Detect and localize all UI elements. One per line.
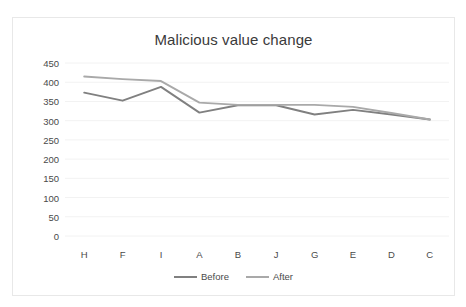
legend-line-icon [174,276,197,278]
x-axis-tick-label-f: F [108,249,138,260]
y-axis-tick-label: 300 [25,115,59,126]
chart-container: Malicious value change 45040035030025020… [12,17,455,296]
gridlines-group [65,63,449,236]
legend-line-icon [246,276,269,278]
x-axis-tick-label-g: G [300,249,330,260]
x-axis-tick-label-b: B [223,249,253,260]
y-axis-tick-label: 200 [25,154,59,165]
legend-label: Before [201,271,229,282]
legend-label: After [273,271,293,282]
y-axis-tick-label: 0 [25,231,59,242]
x-axis-tick-label-j: J [261,249,291,260]
y-axis-tick-label: 250 [25,134,59,145]
x-axis-tick-label-a: A [184,249,214,260]
y-axis-tick-label: 400 [25,77,59,88]
x-axis-tick-label-e: E [338,249,368,260]
legend-item-before[interactable]: Before [174,271,229,282]
y-axis-tick-label: 150 [25,173,59,184]
x-axis-tick-label-d: D [376,249,406,260]
y-axis-tick-label: 100 [25,192,59,203]
x-axis-tick-label-h: H [69,249,99,260]
series-lines-group [84,76,430,119]
chart-legend: BeforeAfter [13,271,454,282]
x-axis-tick-label-i: I [146,249,176,260]
x-axis-tick-label-c: C [415,249,445,260]
series-line-before [84,87,430,120]
legend-item-after[interactable]: After [246,271,293,282]
y-axis-tick-label: 350 [25,96,59,107]
y-axis-tick-label: 450 [25,58,59,69]
y-axis-tick-label: 50 [25,211,59,222]
